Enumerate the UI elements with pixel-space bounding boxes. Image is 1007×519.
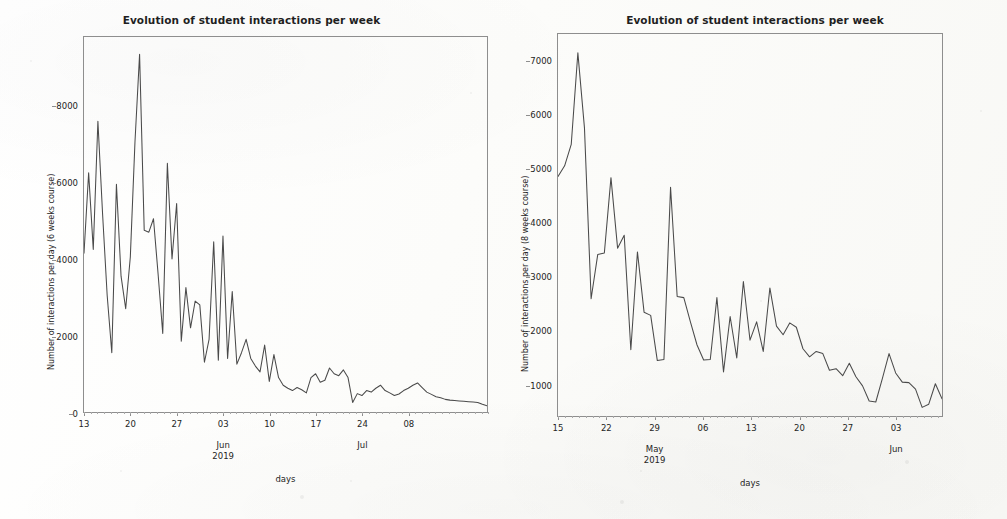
x-minor-tick-mark xyxy=(197,412,198,414)
x-minor-tick-mark xyxy=(779,416,780,418)
x-minor-tick-mark xyxy=(827,416,828,418)
x-minor-tick-mark xyxy=(606,416,607,418)
x-minor-tick-mark xyxy=(731,416,732,418)
y-tick-mark xyxy=(52,260,56,261)
x-minor-tick-mark xyxy=(565,416,566,418)
x-minor-tick-mark xyxy=(751,416,752,418)
x-minor-tick-mark xyxy=(223,412,224,414)
x-minor-tick-mark xyxy=(343,412,344,414)
x-minor-tick-mark xyxy=(593,416,594,418)
x-minor-tick-mark xyxy=(402,412,403,414)
series-line-left xyxy=(84,37,487,412)
x-minor-tick-mark xyxy=(382,412,383,414)
x-minor-tick-mark xyxy=(462,412,463,414)
series-line-right xyxy=(558,34,942,416)
x-minor-tick-mark xyxy=(882,416,883,418)
x-minor-tick-mark xyxy=(376,412,377,414)
x-minor-tick-mark xyxy=(111,412,112,414)
x-tick-label: 20 xyxy=(794,423,805,433)
x-minor-tick-mark xyxy=(682,416,683,418)
x-minor-tick-mark xyxy=(813,416,814,418)
x-minor-tick-mark xyxy=(689,416,690,418)
x-minor-tick-mark xyxy=(217,412,218,414)
x-minor-tick-mark xyxy=(572,416,573,418)
x-tick-label: 10 xyxy=(264,419,275,429)
x-minor-tick-mark xyxy=(579,416,580,418)
x-minor-tick-mark xyxy=(648,416,649,418)
x-minor-tick-mark xyxy=(243,412,244,414)
x-minor-tick-mark xyxy=(144,412,145,414)
x-group-year: 2019 xyxy=(644,455,666,466)
x-tick-label: 22 xyxy=(601,423,612,433)
x-group-month: Jun xyxy=(212,440,234,451)
x-minor-tick-mark xyxy=(183,412,184,414)
y-tick-label: 2000 xyxy=(56,332,84,342)
y-tick-label: 6000 xyxy=(56,178,84,188)
x-minor-tick-mark xyxy=(289,412,290,414)
x-minor-tick-mark xyxy=(170,412,171,414)
x-minor-tick-mark xyxy=(323,412,324,414)
x-minor-tick-mark xyxy=(717,416,718,418)
x-group-month: Jul xyxy=(357,440,367,451)
x-tick-label: 03 xyxy=(891,423,902,433)
x-minor-tick-mark xyxy=(620,416,621,418)
x-tick-label: 29 xyxy=(649,423,660,433)
x-tick-label: 03 xyxy=(218,419,229,429)
x-minor-tick-mark xyxy=(442,412,443,414)
x-minor-tick-mark xyxy=(724,416,725,418)
y-tick-mark xyxy=(52,337,56,338)
x-minor-tick-mark xyxy=(230,412,231,414)
y-tick-label: 7000 xyxy=(530,56,558,66)
x-minor-tick-mark xyxy=(316,412,317,414)
x-minor-tick-mark xyxy=(396,412,397,414)
x-minor-tick-mark xyxy=(130,412,131,414)
y-tick-label: 6000 xyxy=(530,110,558,120)
chart-panel-right: Evolution of student interactions per we… xyxy=(503,0,1007,519)
y-tick-label: 1000 xyxy=(530,381,558,391)
x-minor-tick-mark xyxy=(303,412,304,414)
x-axis-group-label: Jun xyxy=(889,444,902,455)
x-minor-tick-mark xyxy=(468,412,469,414)
x-group-year: 2019 xyxy=(212,451,234,462)
x-minor-tick-mark xyxy=(91,412,92,414)
x-minor-tick-mark xyxy=(356,412,357,414)
x-minor-tick-mark xyxy=(862,416,863,418)
x-minor-tick-mark xyxy=(124,412,125,414)
y-tick-label: 3000 xyxy=(530,272,558,282)
x-minor-tick-mark xyxy=(758,416,759,418)
x-minor-tick-mark xyxy=(482,412,483,414)
x-minor-tick-mark xyxy=(627,416,628,418)
x-axis-label-left: days xyxy=(275,474,295,484)
y-axis-label-right: Number of interactions per day (8 weeks … xyxy=(521,176,530,372)
x-tick-label: 13 xyxy=(746,423,757,433)
x-axis-group-label: Jul xyxy=(357,440,367,451)
x-minor-tick-mark xyxy=(488,412,489,414)
y-tick-mark xyxy=(526,61,530,62)
x-minor-tick-mark xyxy=(177,412,178,414)
x-minor-tick-mark xyxy=(429,412,430,414)
x-group-month: May xyxy=(644,444,666,455)
x-minor-tick-mark xyxy=(362,412,363,414)
x-axis-group-label: Jun2019 xyxy=(212,440,234,462)
y-tick-label: 4000 xyxy=(530,218,558,228)
y-tick-mark xyxy=(52,106,56,107)
x-minor-tick-mark xyxy=(190,412,191,414)
x-minor-tick-mark xyxy=(924,416,925,418)
x-minor-tick-mark xyxy=(599,416,600,418)
x-minor-tick-mark xyxy=(744,416,745,418)
x-minor-tick-mark xyxy=(475,412,476,414)
x-minor-tick-mark xyxy=(157,412,158,414)
y-tick-label: 2000 xyxy=(530,326,558,336)
x-tick-label: 08 xyxy=(403,419,414,429)
x-minor-tick-mark xyxy=(329,412,330,414)
x-minor-tick-mark xyxy=(558,416,559,418)
y-tick-mark xyxy=(526,169,530,170)
x-minor-tick-mark xyxy=(786,416,787,418)
y-axis-label-left: Number of interactions per day (6 weeks … xyxy=(47,174,56,370)
x-minor-tick-mark xyxy=(150,412,151,414)
x-minor-tick-mark xyxy=(903,416,904,418)
x-minor-tick-mark xyxy=(820,416,821,418)
y-tick-label: 4000 xyxy=(56,255,84,265)
x-minor-tick-mark xyxy=(349,412,350,414)
plot-area-left: 02000400060008000 1320270310172408Jun201… xyxy=(83,36,488,413)
